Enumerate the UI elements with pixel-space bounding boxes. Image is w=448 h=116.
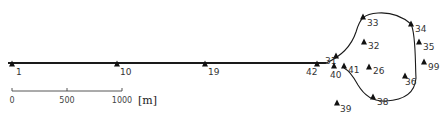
station-35: 35 — [416, 39, 434, 53]
triangle-marker-icon — [341, 63, 347, 69]
triangle-marker-icon — [421, 59, 427, 65]
station-label: 40 — [330, 70, 342, 80]
station-label: 38 — [377, 97, 389, 107]
survey-map: 1101942314041322633343599363839 05001000… — [0, 0, 448, 116]
station-label: 35 — [423, 42, 434, 52]
station-label: 32 — [368, 41, 379, 51]
triangle-marker-icon — [370, 94, 376, 100]
scale-tick-label: 500 — [59, 96, 74, 105]
triangle-marker-icon — [361, 39, 367, 45]
station-26: 26 — [366, 64, 385, 77]
triangle-marker-icon — [408, 21, 414, 27]
station-label: 39 — [340, 104, 352, 114]
station-label: 41 — [348, 65, 359, 75]
station-36: 36 — [402, 73, 417, 88]
station-41: 41 — [341, 63, 359, 76]
station-label: 19 — [208, 67, 220, 77]
triangle-marker-icon — [366, 64, 372, 70]
station-32: 32 — [361, 39, 379, 52]
station-label: 1 — [16, 67, 22, 77]
scale-tick-label: 0 — [9, 96, 14, 105]
station-label: 36 — [405, 77, 417, 87]
station-label: 42 — [306, 67, 317, 77]
triangle-marker-icon — [416, 39, 422, 45]
scale-tick-label: 1000 — [112, 96, 132, 105]
station-31: 31 — [325, 53, 339, 67]
station-label: 33 — [367, 18, 378, 28]
station-34: 34 — [408, 21, 427, 35]
station-label: 26 — [373, 66, 385, 76]
station-38: 38 — [370, 94, 389, 108]
station-39: 39 — [334, 100, 352, 115]
station-33: 33 — [360, 14, 378, 29]
station-label: 99 — [428, 62, 440, 72]
station-99: 99 — [421, 59, 440, 73]
scale-unit-label: [m] — [138, 94, 157, 107]
station-label: 10 — [120, 67, 132, 77]
station-label: 34 — [415, 24, 427, 34]
scale-bar: 05001000 [m] — [9, 88, 157, 107]
